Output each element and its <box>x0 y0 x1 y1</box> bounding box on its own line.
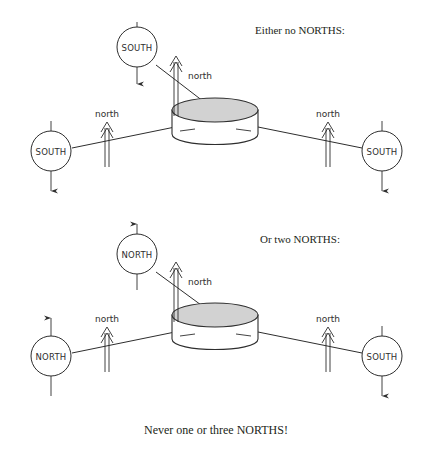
panel-bottom: Or two NORTHS: NORTH <box>31 224 402 396</box>
magnet-left-north: NORTH <box>31 318 71 396</box>
pole-label: SOUTH <box>367 147 398 157</box>
disc-bottom <box>172 303 258 350</box>
flux-arrow-label: north <box>316 314 340 324</box>
diagram-canvas: Either no NORTHS: <box>0 0 433 451</box>
figure-caption: Never one or three NORTHS! <box>144 423 288 437</box>
magnet-top-south: SOUTH <box>117 22 157 84</box>
magnet-left-south: SOUTH <box>31 121 71 191</box>
pole-label: NORTH <box>36 352 67 362</box>
flux-arrow-right: north <box>316 109 340 167</box>
flux-arrow-left: north <box>95 109 119 167</box>
disc-top <box>172 98 258 145</box>
heading-middle: Or two NORTHS: <box>260 233 340 245</box>
magnet-pole-figure: Either no NORTHS: <box>0 0 433 451</box>
pole-label: SOUTH <box>122 43 153 53</box>
magnet-right-south: SOUTH <box>362 326 402 396</box>
flux-arrow-label: north <box>95 109 119 119</box>
flux-arrow-left: north <box>95 314 119 372</box>
heading-top: Either no NORTHS: <box>255 24 345 36</box>
pole-label: SOUTH <box>36 147 67 157</box>
magnet-right-south: SOUTH <box>362 121 402 191</box>
pole-label: SOUTH <box>367 352 398 362</box>
flux-arrow-right: north <box>316 314 340 372</box>
panel-top: Either no NORTHS: <box>31 22 402 191</box>
magnet-top-north: NORTH <box>117 224 157 290</box>
flux-arrow-label: north <box>188 71 212 81</box>
flux-arrow-label: north <box>95 314 119 324</box>
flux-arrow-label: north <box>188 277 212 287</box>
pole-label: NORTH <box>122 250 153 260</box>
flux-arrow-label: north <box>316 109 340 119</box>
